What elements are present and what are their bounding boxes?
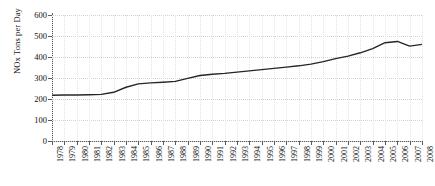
x-tick-mark bbox=[212, 141, 213, 145]
data-series-line bbox=[52, 15, 422, 141]
x-tick-label: 1986 bbox=[155, 146, 164, 162]
y-tick-label: 400 bbox=[25, 52, 47, 62]
x-tick-label: 1993 bbox=[241, 146, 250, 162]
x-tick-mark bbox=[360, 141, 361, 145]
x-tick-mark bbox=[52, 141, 53, 145]
x-tick-mark bbox=[385, 141, 386, 145]
x-tick-mark bbox=[336, 141, 337, 145]
x-tick-mark bbox=[188, 141, 189, 145]
x-tick-label: 1997 bbox=[290, 146, 299, 162]
x-tick-mark bbox=[262, 141, 263, 145]
x-tick-label: 1991 bbox=[216, 146, 225, 162]
x-tick-mark bbox=[397, 141, 398, 145]
x-tick-mark bbox=[311, 141, 312, 145]
x-tick-label: 2002 bbox=[352, 146, 361, 162]
x-tick-label: 1998 bbox=[303, 146, 312, 162]
x-tick-mark bbox=[138, 141, 139, 145]
x-tick-label: 1982 bbox=[105, 146, 114, 162]
x-tick-label: 1994 bbox=[253, 146, 262, 162]
x-tick-mark bbox=[163, 141, 164, 145]
x-tick-label: 2008 bbox=[426, 146, 435, 162]
gridline-vertical bbox=[422, 15, 423, 141]
x-tick-label: 2005 bbox=[389, 146, 398, 162]
x-tick-mark bbox=[89, 141, 90, 145]
x-tick-mark bbox=[348, 141, 349, 145]
y-tick-label: 200 bbox=[25, 94, 47, 104]
x-tick-mark bbox=[299, 141, 300, 145]
x-tick-label: 1985 bbox=[142, 146, 151, 162]
x-tick-label: 1992 bbox=[229, 146, 238, 162]
y-axis-tick-labels: 0100200300400500600 bbox=[25, 0, 47, 186]
x-tick-mark bbox=[422, 141, 423, 145]
x-tick-label: 1984 bbox=[130, 146, 139, 162]
x-axis-tick-labels: 1978197919801981198219831984198519861987… bbox=[52, 146, 423, 186]
x-tick-label: 1987 bbox=[167, 146, 176, 162]
x-tick-mark bbox=[373, 141, 374, 145]
x-tick-label: 2004 bbox=[377, 146, 386, 162]
x-tick-mark bbox=[274, 141, 275, 145]
x-tick-label: 1999 bbox=[315, 146, 324, 162]
x-tick-label: 1980 bbox=[81, 146, 90, 162]
x-tick-mark bbox=[200, 141, 201, 145]
x-tick-label: 1990 bbox=[204, 146, 213, 162]
plot-area bbox=[52, 15, 422, 141]
x-tick-mark bbox=[77, 141, 78, 145]
x-tick-mark bbox=[151, 141, 152, 145]
x-tick-mark bbox=[101, 141, 102, 145]
x-tick-label: 1995 bbox=[266, 146, 275, 162]
x-tick-mark bbox=[225, 141, 226, 145]
x-tick-mark bbox=[114, 141, 115, 145]
y-tick-label: 0 bbox=[25, 136, 47, 146]
x-tick-mark bbox=[323, 141, 324, 145]
x-tick-mark bbox=[237, 141, 238, 145]
x-tick-label: 2003 bbox=[364, 146, 373, 162]
y-tick-label: 300 bbox=[25, 73, 47, 83]
x-tick-label: 1983 bbox=[118, 146, 127, 162]
x-tick-mark bbox=[410, 141, 411, 145]
x-tick-label: 1981 bbox=[93, 146, 102, 162]
x-tick-label: 1978 bbox=[56, 146, 65, 162]
x-tick-label: 1979 bbox=[68, 146, 77, 162]
x-tick-mark bbox=[286, 141, 287, 145]
y-tick-label: 500 bbox=[25, 31, 47, 41]
x-tick-label: 2001 bbox=[340, 146, 349, 162]
x-tick-label: 1989 bbox=[192, 146, 201, 162]
x-tick-label: 2006 bbox=[401, 146, 410, 162]
x-tick-mark bbox=[64, 141, 65, 145]
x-tick-mark bbox=[126, 141, 127, 145]
y-axis-label: NOx Tons per Day bbox=[12, 0, 22, 96]
x-tick-label: 2007 bbox=[414, 146, 423, 162]
x-tick-mark bbox=[175, 141, 176, 145]
x-tick-label: 2000 bbox=[327, 146, 336, 162]
x-tick-label: 1996 bbox=[278, 146, 287, 162]
x-tick-label: 1988 bbox=[179, 146, 188, 162]
y-tick-label: 600 bbox=[25, 10, 47, 20]
x-tick-mark bbox=[249, 141, 250, 145]
y-tick-label: 100 bbox=[25, 115, 47, 125]
